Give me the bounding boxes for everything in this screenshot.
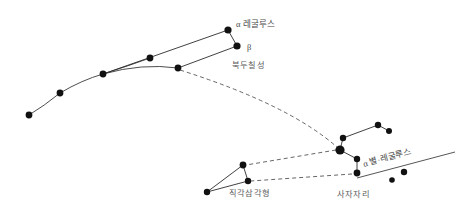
label-leo: 사자자리 xyxy=(337,190,370,199)
star-leo-5 xyxy=(354,156,360,162)
dashed-guide-leo-to-triangle-bottom xyxy=(251,174,352,181)
label-beta: β xyxy=(247,42,251,52)
star-leo-bright xyxy=(335,145,344,154)
big-dipper-bowl-edge-3 xyxy=(178,46,237,68)
label-big-dipper: 북두칠성 xyxy=(232,61,265,70)
star-big-dipper-beta xyxy=(233,42,240,49)
star-big-dipper-2 xyxy=(57,90,64,97)
star-big-dipper-1 xyxy=(26,112,33,119)
star-leo-regulus xyxy=(354,170,361,177)
label-right-triangle: 직각삼각형 xyxy=(229,188,270,198)
star-leo-tail-2 xyxy=(389,177,395,183)
dashed-guide-arc-to-leo xyxy=(180,70,338,148)
star-big-dipper-4 xyxy=(147,55,154,62)
star-leo-3 xyxy=(386,128,392,134)
big-dipper-handle-arc xyxy=(29,58,150,115)
star-leo-tail-1 xyxy=(401,169,407,175)
star-big-dipper-3 xyxy=(100,71,107,78)
star-triangle-top xyxy=(240,162,247,169)
star-big-dipper-alpha xyxy=(224,26,231,33)
big-dipper-bowl-edge-1 xyxy=(103,30,228,74)
star-triangle-left xyxy=(204,189,210,195)
star-leo-2 xyxy=(375,122,381,128)
triangle-edge-3 xyxy=(207,165,243,192)
label-alpha-regulus: α 레굴루스 xyxy=(236,19,275,29)
star-triangle-right xyxy=(245,178,251,184)
dashed-guide-leo-to-triangle-top xyxy=(246,150,336,165)
leo-edge-tail-2 xyxy=(343,125,378,138)
star-chart-figure: α 레굴루스 β 북두칠성 α 별·레굴루스 사자자리 직각삼각형 xyxy=(0,0,461,217)
star-leo-1 xyxy=(340,135,346,141)
big-dipper-group xyxy=(26,26,241,118)
